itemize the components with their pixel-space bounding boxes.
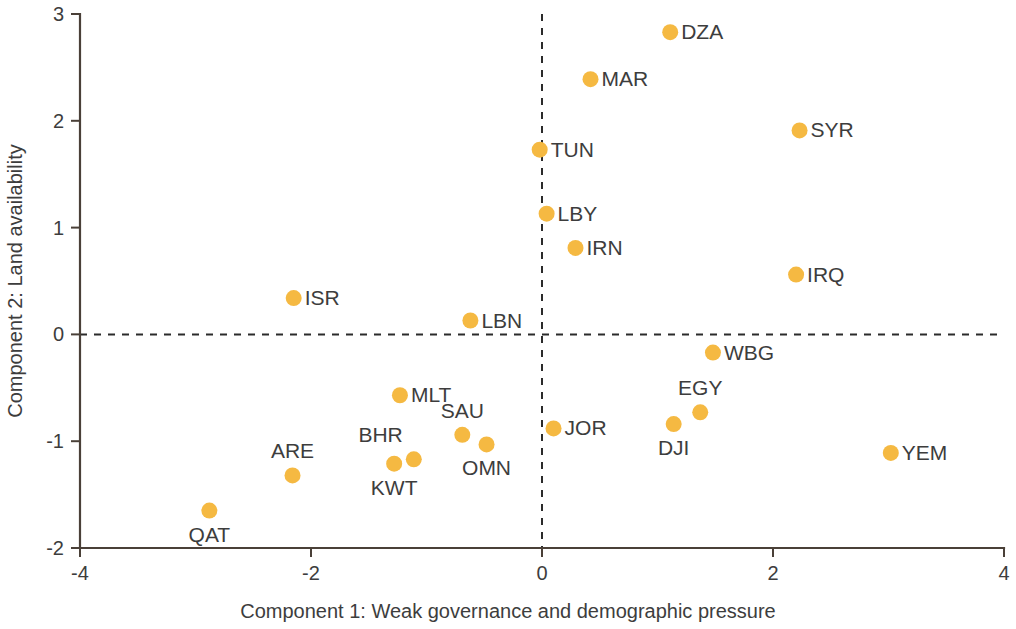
y-tick-label: 3 xyxy=(53,3,64,25)
data-point-marker-isr xyxy=(286,290,302,306)
data-point-marker-syr xyxy=(792,122,808,138)
data-point-label-mar: MAR xyxy=(602,67,649,90)
reference-lines-group xyxy=(80,14,1004,548)
data-point-label-qat: QAT xyxy=(189,523,231,546)
tick-labels-group: 3210-1-2-4-2024 xyxy=(46,3,1009,584)
data-point-marker-egy xyxy=(692,404,708,420)
data-point-marker-lby xyxy=(539,206,555,222)
data-point-marker-jor xyxy=(546,420,562,436)
x-tick-label: 2 xyxy=(767,562,778,584)
y-tick-label: 2 xyxy=(53,110,64,132)
data-point-label-wbg: WBG xyxy=(724,341,774,364)
data-point-label-jor: JOR xyxy=(565,416,607,439)
data-point-marker-dza xyxy=(662,24,678,40)
data-point-label-are: ARE xyxy=(271,439,314,462)
data-point-label-irq: IRQ xyxy=(807,263,844,286)
data-point-marker-qat xyxy=(201,503,217,519)
data-point-marker-tun xyxy=(532,142,548,158)
x-tick-label: -4 xyxy=(71,562,89,584)
data-point-marker-wbg xyxy=(705,345,721,361)
data-point-label-dji: DJI xyxy=(658,436,690,459)
data-point-label-lbn: LBN xyxy=(481,309,522,332)
data-point-label-egy: EGY xyxy=(678,376,722,399)
data-point-label-dza: DZA xyxy=(681,20,723,43)
data-point-marker-are xyxy=(285,467,301,483)
data-point-label-bhr: BHR xyxy=(358,423,402,446)
data-point-marker-yem xyxy=(883,445,899,461)
data-point-marker-dji xyxy=(666,416,682,432)
x-tick-label: 0 xyxy=(536,562,547,584)
data-point-marker-irn xyxy=(567,240,583,256)
x-tick-label: -2 xyxy=(302,562,320,584)
y-tick-label: -1 xyxy=(46,430,64,452)
data-point-marker-sau xyxy=(454,427,470,443)
data-point-marker-bhr xyxy=(406,451,422,467)
data-point-label-omn: OMN xyxy=(462,456,511,479)
y-axis-title: Component 2: Land availability xyxy=(4,144,26,418)
data-point-labels-group: DZAMARSYRTUNLBYIRNIRQISRLBNWBGMLTEGYDJIJ… xyxy=(189,20,948,545)
data-point-marker-irq xyxy=(788,267,804,283)
data-point-label-lby: LBY xyxy=(558,202,598,225)
data-point-marker-kwt xyxy=(386,456,402,472)
x-axis-title: Component 1: Weak governance and demogra… xyxy=(240,600,776,622)
y-tick-label: 1 xyxy=(53,217,64,239)
data-point-label-kwt: KWT xyxy=(371,476,418,499)
tick-marks-group xyxy=(71,14,1004,557)
y-tick-label: 0 xyxy=(53,323,64,345)
data-point-marker-lbn xyxy=(462,313,478,329)
y-tick-label: -2 xyxy=(46,537,64,559)
data-point-label-tun: TUN xyxy=(551,138,594,161)
data-point-label-isr: ISR xyxy=(305,286,340,309)
data-point-marker-omn xyxy=(479,436,495,452)
scatter-plot-figure: 3210-1-2-4-2024 DZAMARSYRTUNLBYIRNIRQISR… xyxy=(0,0,1016,629)
data-point-label-sau: SAU xyxy=(441,399,484,422)
data-point-marker-mar xyxy=(583,71,599,87)
plot-canvas: 3210-1-2-4-2024 DZAMARSYRTUNLBYIRNIRQISR… xyxy=(0,0,1016,629)
data-point-label-yem: YEM xyxy=(902,441,948,464)
data-point-label-syr: SYR xyxy=(811,118,854,141)
x-tick-label: 4 xyxy=(998,562,1009,584)
data-point-label-irn: IRN xyxy=(586,236,622,259)
data-point-marker-mlt xyxy=(392,387,408,403)
